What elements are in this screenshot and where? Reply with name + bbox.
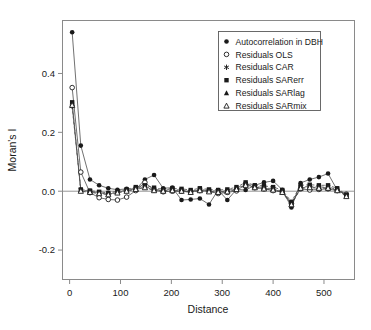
y-tick-label: 0.2	[42, 127, 55, 138]
data-point	[188, 197, 193, 202]
x-axis-title: Distance	[188, 303, 229, 315]
data-point	[243, 188, 248, 193]
data-point	[88, 177, 93, 182]
data-point	[79, 143, 84, 148]
moran-correlogram-chart: 0100200300400500 -0.20.00.20.4 Distance …	[0, 0, 371, 330]
data-point	[97, 183, 102, 188]
data-point	[115, 198, 120, 203]
legend-marker-open-circle-icon	[224, 52, 229, 57]
x-tick-label: 200	[163, 287, 179, 298]
x-tick-label: 300	[214, 287, 230, 298]
data-point	[106, 197, 111, 202]
legend-label: Autocorrelation in DBH	[236, 37, 323, 47]
data-point	[225, 198, 230, 203]
correlogram-figure: 0100200300400500 -0.20.00.20.4 Distance …	[0, 0, 371, 330]
x-tick-label: 100	[113, 287, 129, 298]
y-tick-label: 0.0	[42, 186, 55, 197]
data-point	[326, 171, 331, 176]
y-tick-label: 0.4	[42, 68, 55, 79]
data-point	[198, 196, 203, 201]
legend-label: Residuals CAR	[236, 62, 294, 72]
data-point	[106, 186, 111, 191]
data-point	[79, 170, 84, 175]
x-tick-label: 0	[67, 287, 72, 298]
legend-marker-filled-square-icon	[224, 78, 228, 82]
data-point	[124, 195, 129, 200]
data-point	[317, 175, 322, 180]
data-point	[307, 177, 312, 182]
data-point	[152, 173, 157, 178]
legend-label: Residuals SARerr	[236, 75, 304, 85]
chart-legend: Autocorrelation in DBHResiduals OLSResid…	[219, 32, 323, 112]
y-axis-title: Moran's I	[6, 129, 18, 172]
x-tick-label: 500	[316, 287, 332, 298]
data-point	[179, 198, 184, 203]
x-tick-label: 400	[265, 287, 281, 298]
legend-marker-filled-circle-icon	[224, 39, 229, 44]
legend-label: Residuals SARlag	[236, 88, 305, 98]
y-tick-label: -0.2	[39, 244, 55, 255]
legend-label: Residuals OLS	[236, 50, 294, 60]
data-point	[207, 202, 212, 207]
legend-label: Residuals SARmix	[236, 101, 308, 111]
data-point	[271, 179, 276, 184]
data-point	[70, 30, 75, 35]
data-point	[70, 85, 75, 90]
